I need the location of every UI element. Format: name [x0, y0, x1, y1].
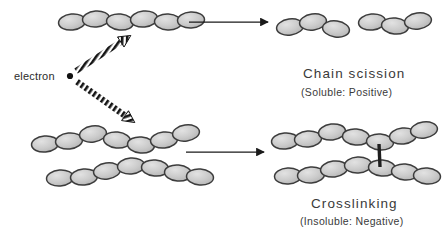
- crosslink-bond: [379, 144, 380, 167]
- chain-scission-subtitle: (Soluble: Positive): [301, 86, 392, 98]
- monomer-unit: [344, 156, 372, 173]
- monomer-unit: [342, 128, 370, 146]
- scission-fragment-left: [276, 12, 351, 39]
- electron-beam-up-shaft: [76, 42, 121, 71]
- reactant-chain-lower: [46, 157, 214, 187]
- electron-dot: [67, 73, 73, 79]
- monomer-unit: [186, 168, 214, 186]
- monomer-unit: [318, 122, 347, 141]
- reactant-polymer-chain: [58, 10, 205, 32]
- monomer-unit: [413, 167, 441, 185]
- monomer-unit: [93, 161, 122, 181]
- scission-fragment-right: [358, 11, 433, 35]
- electron-beam-down-shaft: [76, 81, 125, 116]
- figure-canvas: electron Chain scission (Soluble: Positi…: [0, 0, 442, 232]
- monomer-unit: [82, 10, 110, 28]
- electron-label: electron: [14, 70, 55, 82]
- reactant-chain-upper: [31, 123, 201, 154]
- crosslink-bond-line: [379, 144, 380, 167]
- electron-point-marker: [67, 73, 73, 79]
- monomer-unit: [106, 13, 135, 32]
- monomer-unit: [322, 19, 351, 39]
- crosslinked-chain-upper: [271, 120, 439, 151]
- monomer-unit: [31, 135, 59, 153]
- electron-beam-arrows: [76, 30, 138, 127]
- monomer-unit: [320, 159, 349, 178]
- monomer-unit: [172, 123, 201, 143]
- monomer-unit: [410, 120, 439, 140]
- monomer-unit: [177, 11, 205, 28]
- crosslinked-chain-lower: [274, 156, 441, 185]
- monomer-unit: [404, 11, 433, 31]
- chain-scission-title: Chain scission: [303, 66, 405, 81]
- crosslinking-title: Crosslinking: [311, 196, 398, 211]
- monomer-unit: [130, 10, 159, 29]
- monomer-unit: [117, 157, 145, 175]
- monomer-unit: [58, 13, 87, 32]
- monomer-unit: [103, 131, 132, 150]
- crosslinking-subtitle: (Insoluble: Negative): [300, 215, 404, 227]
